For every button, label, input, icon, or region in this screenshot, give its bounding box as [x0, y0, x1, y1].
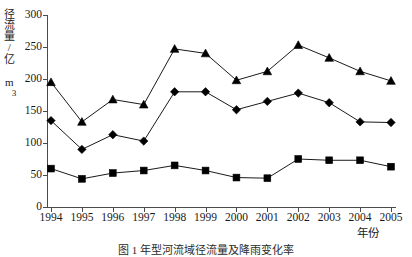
y-axis-tick: [43, 207, 48, 208]
series-diamond-line: [51, 92, 391, 150]
y-axis-title: 径流量/亿 m3: [2, 8, 18, 98]
y-axis-tick-label: 150: [25, 105, 42, 117]
series-diamond: [47, 88, 395, 154]
data-point-diamond: [356, 118, 364, 126]
data-point-triangle: [109, 95, 118, 103]
x-axis-tick-label: 1997: [132, 212, 155, 224]
data-point-square: [295, 156, 302, 163]
y-axis-tick-label: 100: [25, 137, 42, 149]
data-point-triangle: [47, 78, 56, 86]
data-point-square: [388, 163, 395, 170]
data-point-diamond: [109, 130, 117, 138]
data-point-square: [202, 167, 209, 174]
x-axis-tick-label: 1994: [40, 212, 63, 224]
y-axis-tick-label: 250: [25, 41, 42, 53]
data-point-diamond: [170, 88, 178, 96]
data-point-diamond: [232, 106, 240, 114]
chart-figure: 径流量/亿 m3 年份 050100150200250300 199419951…: [0, 0, 412, 257]
x-axis-tick-label: 1995: [70, 212, 93, 224]
y-axis-tick-label: 50: [31, 169, 43, 181]
data-point-triangle: [325, 54, 334, 62]
y-axis-tick-label: 200: [25, 73, 42, 85]
data-point-triangle: [294, 41, 303, 49]
figure-caption: 图 1 年型河流域径流量及降雨变化率: [0, 241, 412, 257]
series-triangle-line: [51, 45, 391, 122]
x-axis-tick-label: 2002: [287, 212, 310, 224]
x-axis-tick-label: 2001: [256, 212, 279, 224]
x-axis-tick-label: 2004: [349, 212, 372, 224]
x-axis-title: 年份: [357, 224, 379, 240]
data-point-diamond: [140, 137, 148, 145]
x-axis-line: [47, 207, 396, 208]
data-point-square: [264, 175, 271, 182]
y-axis-title-text: 径流量/亿 m: [3, 8, 15, 88]
series-square-line: [51, 159, 391, 179]
data-point-square: [326, 157, 333, 164]
data-point-square: [233, 174, 240, 181]
data-point-square: [171, 162, 178, 169]
series-plot: [47, 15, 395, 207]
y-axis-title-exponent: 3: [9, 88, 19, 98]
x-axis-tick-label: 1998: [163, 212, 186, 224]
data-point-triangle: [387, 77, 396, 85]
data-point-square: [140, 167, 147, 174]
y-axis-tick-label: 300: [25, 9, 42, 21]
plot-area: 050100150200250300 199419951996199719981…: [47, 15, 395, 207]
series-square: [48, 156, 395, 183]
data-point-diamond: [263, 97, 271, 105]
series-triangle: [47, 41, 396, 126]
x-axis-tick-label: 1999: [194, 212, 217, 224]
data-point-square: [79, 175, 86, 182]
data-point-square: [109, 170, 116, 177]
x-axis-tick-label: 2000: [225, 212, 248, 224]
data-point-square: [357, 157, 364, 164]
data-point-triangle: [356, 67, 365, 75]
data-point-triangle: [170, 45, 179, 53]
data-point-diamond: [387, 118, 395, 126]
data-point-diamond: [325, 98, 333, 106]
x-axis-tick-label: 2003: [318, 212, 341, 224]
x-axis-tick-label: 2005: [380, 212, 403, 224]
x-axis-tick-label: 1996: [101, 212, 124, 224]
data-point-diamond: [294, 89, 302, 97]
data-point-diamond: [201, 88, 209, 96]
data-point-square: [48, 165, 55, 172]
